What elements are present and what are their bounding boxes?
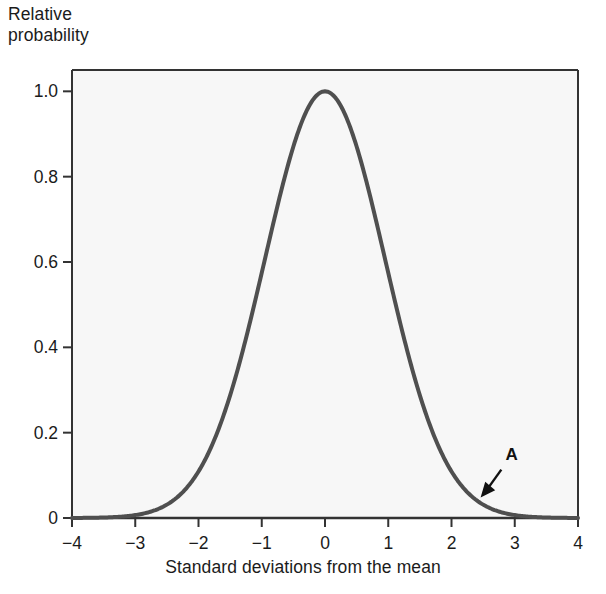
- figure-container: Relativeprobability −4−3−2−101234 00.20.…: [0, 0, 606, 594]
- y-tick-label: 0.4: [34, 337, 59, 357]
- y-tick-label: 0: [48, 508, 58, 528]
- x-tick-label: 0: [320, 533, 330, 553]
- x-tick-label: 4: [573, 533, 583, 553]
- x-tick-label: 3: [510, 533, 520, 553]
- x-tick-label: −2: [189, 533, 209, 553]
- y-tick-label: 1.0: [34, 81, 59, 101]
- x-axis-label: Standard deviations from the mean: [0, 557, 606, 578]
- plot-background: [72, 70, 578, 518]
- annotation-label-a: A: [505, 445, 517, 464]
- chart-plot-area: −4−3−2−101234 00.20.40.60.81.0 A: [0, 0, 606, 594]
- x-tick-label: −4: [62, 533, 82, 553]
- x-tick-label: −1: [252, 533, 272, 553]
- y-tick-label: 0.8: [34, 167, 58, 187]
- x-tick-label: −3: [125, 533, 145, 553]
- x-axis-ticks: −4−3−2−101234: [62, 518, 583, 553]
- x-tick-label: 1: [383, 533, 393, 553]
- y-tick-label: 0.6: [34, 252, 58, 272]
- y-tick-label: 0.2: [34, 423, 58, 443]
- y-axis-ticks: 00.20.40.60.81.0: [34, 81, 72, 528]
- x-tick-label: 2: [447, 533, 457, 553]
